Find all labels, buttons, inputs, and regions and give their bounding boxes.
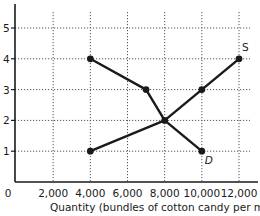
- y-tick-label: 4: [3, 53, 10, 65]
- x-tick-label: 10,000: [183, 187, 220, 199]
- data-point: [161, 117, 168, 124]
- x-tick-label: 2,000: [38, 187, 68, 199]
- supply-label: S: [242, 41, 249, 53]
- supply-demand-chart: 12345 02,0004,0006,0008,00010,00012,000 …: [0, 0, 260, 216]
- y-tick-labels: 12345: [3, 22, 15, 157]
- gridlines: [15, 12, 250, 182]
- x-axis-label: Quantity (bundles of cotton candy per mo…: [50, 201, 260, 213]
- curve-labels: SD: [205, 41, 249, 166]
- y-tick-label: 1: [3, 145, 10, 157]
- x-tick-label: 8,000: [150, 187, 180, 199]
- x-tick-labels: 02,0004,0006,0008,00010,00012,000: [5, 187, 258, 199]
- y-tick-label: 5: [3, 22, 10, 34]
- y-tick-label: 3: [3, 84, 10, 96]
- data-point: [143, 86, 150, 93]
- data-point: [87, 148, 94, 155]
- x-tick-label: 6,000: [112, 187, 142, 199]
- x-tick-label: 12,000: [221, 187, 258, 199]
- demand-label: D: [205, 154, 213, 166]
- x-tick-label: 4,000: [75, 187, 105, 199]
- data-point: [198, 86, 205, 93]
- x-tick-label: 0: [5, 187, 12, 199]
- axes: [15, 4, 258, 182]
- data-point: [236, 55, 243, 62]
- data-point: [87, 55, 94, 62]
- y-tick-label: 2: [3, 114, 10, 126]
